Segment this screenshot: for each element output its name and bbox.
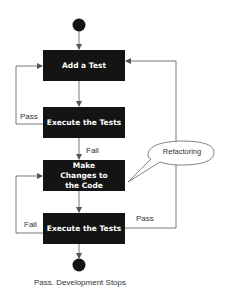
refactoring-callout-label: Refactoring — [150, 147, 214, 156]
node-execute-tests-1-label: Execute the Tests — [47, 118, 121, 128]
end-node-caption: Pass. Development Stops — [0, 278, 160, 287]
node-execute-tests-2: Execute the Tests — [43, 213, 125, 244]
edge-label-pass-1: Pass — [20, 112, 38, 121]
node-add-test-label: Add a Test — [62, 61, 106, 71]
edge-label-fail-2: Fail — [24, 220, 37, 229]
node-add-test: Add a Test — [43, 50, 125, 81]
node-execute-tests-1: Execute the Tests — [43, 107, 125, 138]
node-execute-tests-2-label: Execute the Tests — [47, 224, 121, 234]
end-node — [73, 259, 86, 272]
edge-label-fail-1: Fail — [86, 146, 99, 155]
edge-label-pass-2: Pass — [136, 214, 154, 223]
start-node — [73, 19, 86, 32]
node-make-changes-label: Make Changes to the Code — [57, 161, 111, 191]
node-make-changes: Make Changes to the Code — [43, 160, 125, 191]
